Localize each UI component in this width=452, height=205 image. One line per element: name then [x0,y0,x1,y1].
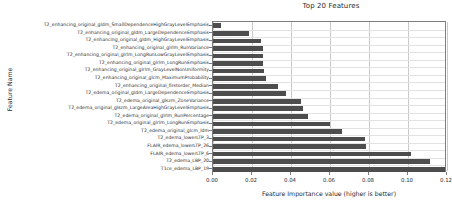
bar-row [213,122,445,127]
bar [213,122,330,127]
bar [213,69,264,74]
bar-row [213,91,445,96]
bar [213,159,430,164]
bar [213,39,261,44]
bar-row [213,129,445,134]
bar-row [213,99,445,104]
x-tick-label: 0.02 [245,177,257,183]
y-tick-label: FLAIR_edema_lowerLTP_6 [4,151,212,156]
bar [213,152,411,157]
bar-row [213,76,445,81]
bar-row [213,106,445,111]
bar-row [213,144,445,149]
bar-row [213,159,445,164]
y-tick-label: FLAIR_edema_lowerLTP_26 [4,143,212,148]
x-tick-label: 0.06 [323,177,335,183]
bar [213,167,445,172]
bar [213,23,221,28]
x-tick-label: 0.04 [284,177,296,183]
x-tick-mark [290,172,291,175]
x-axis-label: Feature Importance value (higher is bett… [212,190,446,197]
bar-row [213,61,445,66]
y-tick-label: T2_enhancing_original_glrlm_LongRunEmpha… [4,60,212,65]
bar-row [213,84,445,89]
x-tick-mark [446,172,447,175]
plot-area [212,21,446,172]
y-tick-label: T2_edema_original_glcm_Idm [4,128,212,133]
bar-row [213,39,445,44]
bar-row [213,114,445,119]
y-tick-label: T2_enhancing_original_gldm_LargeDependen… [4,30,212,35]
y-tick-label: T2_enhancing_original_gldm_SmallDependen… [4,22,212,27]
bar-row [213,69,445,74]
x-tick-label: 0.10 [401,177,413,183]
x-tick-label: 0.08 [362,177,374,183]
y-tick-label: T1ce_edema_LBP_19 [4,166,212,171]
y-tick-label: T2_enhancing_original_glrlm_LongRunLowGr… [4,52,212,57]
bar-row [213,167,445,172]
x-tick-mark [329,172,330,175]
y-tick-label: T2_enhancing_original_glrlm_GrayLevelNon… [4,67,212,72]
x-tick-mark [368,172,369,175]
y-tick-label: T2_enhancing_original_firstorder_Median [4,83,212,88]
y-axis-tick-labels: T2_enhancing_original_gldm_SmallDependen… [0,21,212,172]
y-tick-label: T2_edema_original_gldm_LargeDependenceEm… [4,90,212,95]
y-tick-label: T2_enhancing_original_gldm_HighGrayLevel… [4,37,212,42]
bar [213,144,366,149]
bar [213,99,301,104]
bar-row [213,137,445,142]
x-tick-mark [212,172,213,175]
gridline-x-6 [447,22,448,171]
bar [213,137,365,142]
y-tick-label: T2_enhancing_original_glrlm_RunVariance [4,45,212,50]
bar [213,91,286,96]
bar-row [213,23,445,28]
x-tick-mark [251,172,252,175]
bar-row [213,152,445,157]
bar [213,31,249,36]
y-tick-label: T2_edema_LBP_20 [4,158,212,163]
bar-row [213,31,445,36]
bar [213,46,263,51]
y-tick-label: T2_edema_lowerLTP_3 [4,135,212,140]
bar [213,76,266,81]
x-tick-mark [407,172,408,175]
bar-row [213,54,445,59]
bar [213,129,342,134]
x-axis-tick-labels: 0.000.020.040.060.080.100.12 [212,172,446,188]
y-tick-label: T2_edema_original_glszm_ZoneVariance [4,98,212,103]
y-tick-label: T2_edema_original_glszm_LargeAreaHighGra… [4,105,212,110]
bar [213,61,263,66]
y-tick-label: T2_edema_original_glrlm_RunPercentage [4,113,212,118]
x-tick-label: 0.00 [206,177,218,183]
chart-figure: Top 20 Features Feature Name Feature Imp… [0,0,452,205]
bar [213,114,308,119]
x-tick-label: 0.12 [440,177,452,183]
bar-row [213,46,445,51]
bar [213,54,263,59]
chart-title: Top 20 Features [212,2,450,10]
y-tick-label: T2_enhancing_original_glcm_MaximumProbab… [4,75,212,80]
bar [213,106,303,111]
bar [213,84,278,89]
y-tick-label: T2_edema_original_glrlm_LongRunEmphasis [4,120,212,125]
